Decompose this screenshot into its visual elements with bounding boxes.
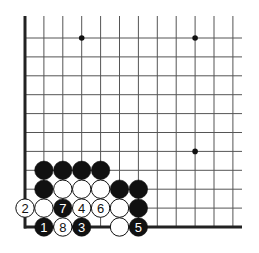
stone-icon <box>129 199 147 217</box>
stone-icon <box>110 199 128 217</box>
move-number: 5 <box>135 220 142 235</box>
white-stone: 4 <box>73 199 91 217</box>
black-stone: 3 <box>73 218 91 236</box>
stone-icon <box>54 161 72 179</box>
move-number: 8 <box>59 220 66 235</box>
white-stone: 2 <box>16 199 34 217</box>
stone-icon <box>129 180 147 198</box>
white-stone <box>35 199 53 217</box>
black-stone <box>35 161 53 179</box>
black-stone <box>54 161 72 179</box>
white-stone: 6 <box>91 199 109 217</box>
white-stone <box>110 199 128 217</box>
white-stone <box>73 180 91 198</box>
black-stone: 5 <box>129 218 147 236</box>
move-number: 2 <box>21 201 28 216</box>
stone-icon <box>91 180 109 198</box>
white-stone <box>110 218 128 236</box>
white-stone <box>54 180 72 198</box>
black-stone <box>73 161 91 179</box>
go-board: 27461835 <box>0 0 259 253</box>
stone-icon <box>110 218 128 236</box>
white-stone: 8 <box>54 218 72 236</box>
star-point-icon <box>79 35 85 41</box>
stones-layer: 27461835 <box>16 161 148 236</box>
move-number: 1 <box>40 220 47 235</box>
white-stone <box>91 180 109 198</box>
stone-icon <box>35 180 53 198</box>
stone-icon <box>54 180 72 198</box>
stone-icon <box>73 180 91 198</box>
move-number: 6 <box>97 201 104 216</box>
go-board-svg: 27461835 <box>0 0 259 253</box>
star-point-icon <box>192 35 198 41</box>
black-stone <box>91 161 109 179</box>
move-number: 7 <box>59 201 66 216</box>
black-stone <box>35 180 53 198</box>
stone-icon <box>35 199 53 217</box>
stone-icon <box>35 161 53 179</box>
black-stone <box>110 180 128 198</box>
stone-icon <box>110 180 128 198</box>
stone-icon <box>91 161 109 179</box>
black-stone <box>129 199 147 217</box>
move-number: 4 <box>78 201 85 216</box>
black-stone: 7 <box>54 199 72 217</box>
black-stone: 1 <box>35 218 53 236</box>
black-stone <box>129 180 147 198</box>
stone-icon <box>73 161 91 179</box>
move-number: 3 <box>78 220 85 235</box>
star-point-icon <box>192 149 198 155</box>
